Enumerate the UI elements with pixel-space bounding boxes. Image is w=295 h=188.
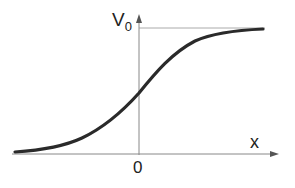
diagram-svg [0,0,295,188]
x-axis-label: x [250,132,259,153]
y-axis-label: V0 [112,9,132,34]
origin-label: 0 [133,158,142,178]
y-label-main: V [112,9,125,30]
y-axis-arrow-icon [136,14,142,23]
x-axis-arrow-icon [270,151,279,157]
sigmoid-diagram: V0 x 0 [0,0,295,188]
y-label-subscript: 0 [125,19,132,34]
